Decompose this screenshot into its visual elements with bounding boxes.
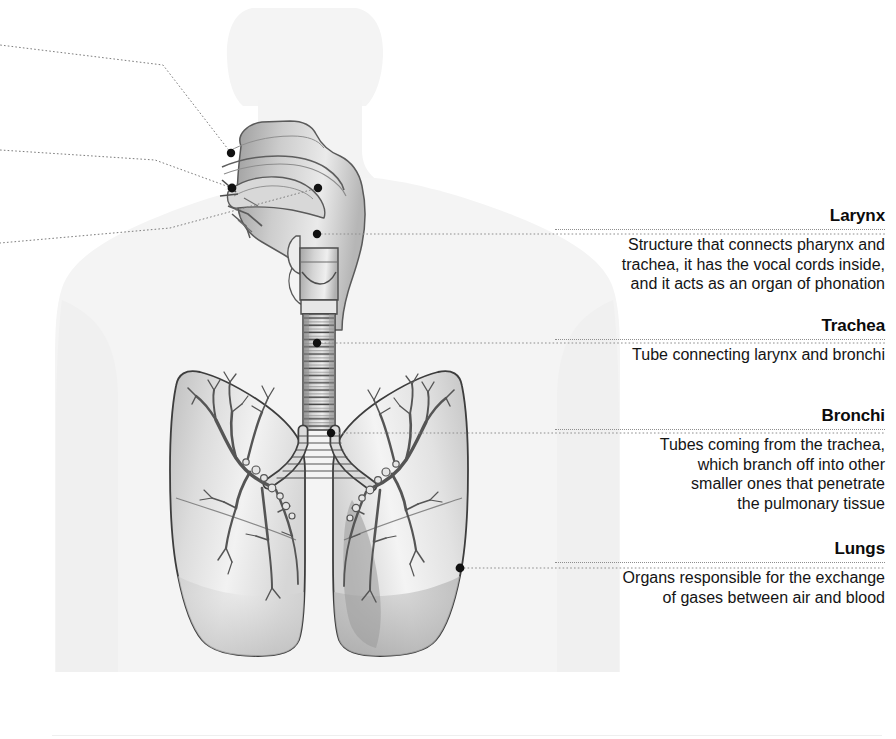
bronchi-marker [327, 429, 335, 437]
label-rule-bronchi [555, 429, 885, 430]
label-rule-trachea [555, 339, 885, 340]
larynx-marker [313, 230, 321, 238]
page-bottom-rule [52, 735, 882, 736]
label-block-larynx: Larynx Structure that connects pharynx a… [555, 206, 885, 294]
respiratory-system-figure [0, 0, 896, 739]
nasal-cavity-marker [227, 149, 235, 157]
nasal-cavity-leader [0, 45, 231, 153]
label-body-trachea: Tube connecting larynx and bronchi [555, 345, 885, 365]
label-heading-larynx: Larynx [555, 206, 885, 225]
pharynx-leader [0, 150, 232, 188]
label-body-lungs: Organs responsible for the exchange of g… [555, 568, 885, 607]
label-block-trachea: Trachea Tube connecting larynx and bronc… [555, 316, 885, 365]
lungs-marker [456, 564, 465, 573]
label-rule-lungs [555, 562, 885, 563]
label-body-bronchi: Tubes coming from the trachea, which bra… [555, 435, 885, 513]
label-rule-larynx [555, 229, 885, 230]
label-block-bronchi: Bronchi Tubes coming from the trachea, w… [555, 406, 885, 513]
label-block-lungs: Lungs Organs responsible for the exchang… [555, 539, 885, 607]
trachea [300, 248, 338, 430]
label-heading-trachea: Trachea [555, 316, 885, 335]
label-heading-lungs: Lungs [555, 539, 885, 558]
trachea-marker [313, 339, 321, 347]
pharynx-marker [228, 184, 237, 193]
label-heading-bronchi: Bronchi [555, 406, 885, 425]
epiglottis-marker [314, 184, 322, 192]
label-body-larynx: Structure that connects pharynx and trac… [555, 235, 885, 294]
